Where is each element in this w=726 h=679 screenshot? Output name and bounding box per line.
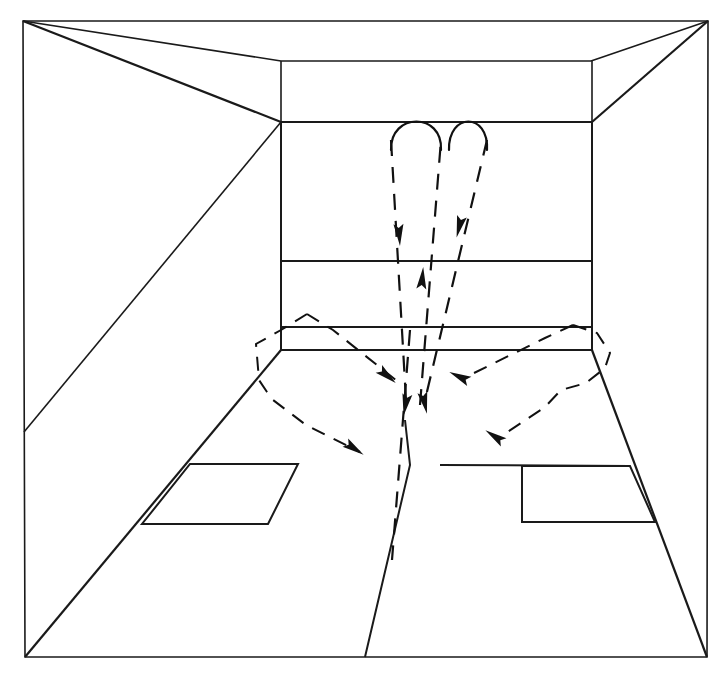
room-airflow-diagram — [0, 0, 726, 679]
figure-root — [0, 0, 726, 679]
diagram-background — [0, 0, 726, 679]
